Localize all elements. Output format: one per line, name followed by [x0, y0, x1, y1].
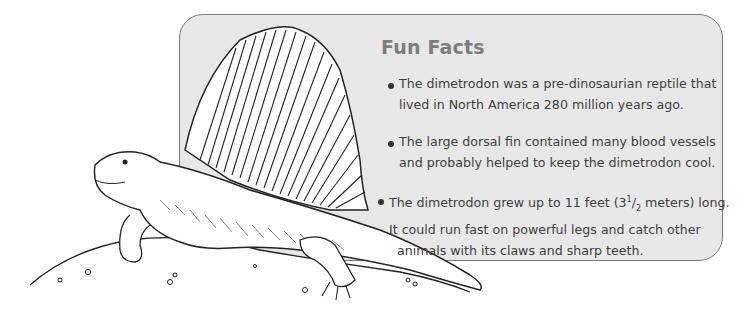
fact-line: The dimetrodon grew up to 11 feet (31/2 … [389, 189, 730, 219]
fact-item: The dimetrodon was a pre-dinosaurian rep… [399, 73, 716, 115]
bullet-icon [388, 141, 394, 147]
fact-item: The dimetrodon grew up to 11 feet (31/2 … [389, 189, 730, 261]
fact-line: animals with its claws and sharp teeth. [389, 240, 730, 261]
fun-facts-title: Fun Facts [381, 36, 485, 58]
fact-item: The large dorsal fin contained many bloo… [399, 131, 716, 173]
fact-line: The large dorsal fin contained many bloo… [399, 131, 716, 152]
fact-line: The dimetrodon was a pre-dinosaurian rep… [399, 73, 716, 94]
bullet-icon [388, 83, 394, 89]
fact-line: It could run fast on powerful legs and c… [389, 219, 730, 240]
bullet-icon [378, 199, 384, 205]
fact-line: and probably helped to keep the dimetrod… [399, 152, 716, 173]
fact-line: lived in North America 280 million years… [399, 94, 716, 115]
